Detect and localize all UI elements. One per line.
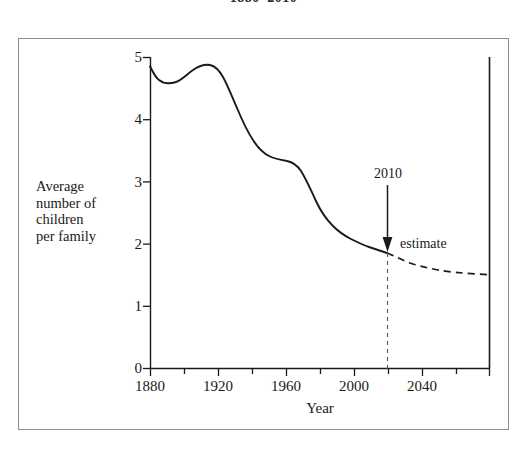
- x-tick-marks: [151, 369, 490, 377]
- x-tick-label-2040: 2040: [392, 379, 452, 394]
- annotation-2010-label: 2010: [363, 166, 413, 181]
- y-axis-title-line-2: number of: [36, 195, 136, 212]
- y-axis-title-line-1: Average: [36, 178, 136, 195]
- y-axis-title-line-4: per family: [36, 228, 136, 245]
- x-tick-label-1880: 1880: [120, 379, 180, 394]
- y-tick-label-1: 1: [120, 299, 142, 314]
- y-axis-title-line-3: children: [36, 211, 136, 228]
- y-tick-label-0: 0: [120, 361, 142, 376]
- x-tick-label-1960: 1960: [256, 379, 316, 394]
- y-tick-marks: [143, 58, 151, 369]
- x-tick-label-1920: 1920: [188, 379, 248, 394]
- figure-root: 1880–2010: [0, 0, 527, 455]
- y-tick-label-5: 5: [120, 50, 142, 65]
- series-observed-line: [150, 65, 387, 253]
- x-axis-title: Year: [260, 400, 380, 416]
- annotation-estimate-label: estimate: [400, 236, 447, 251]
- y-tick-label-4: 4: [120, 112, 142, 127]
- year-2010-arrow-icon: [383, 185, 393, 252]
- y-axis-title: Average number of children per family: [36, 178, 136, 244]
- series-estimate-line: [387, 253, 490, 275]
- x-tick-label-2000: 2000: [324, 379, 384, 394]
